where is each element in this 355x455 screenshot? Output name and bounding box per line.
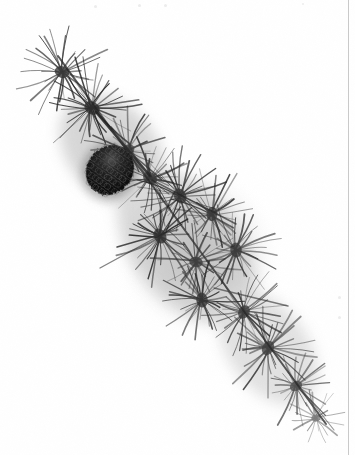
film-grain-overlay	[0, 0, 355, 455]
scan-speck-5	[338, 296, 341, 299]
scan-speck-4	[302, 3, 304, 5]
scan-speck-3	[164, 4, 167, 7]
larch-branch-photograph: Larch branch with cone Black and white p…	[0, 0, 355, 455]
scan-speck-6	[338, 316, 341, 319]
scan-speck-2	[138, 4, 141, 7]
image-canvas: Larch branch with cone Black and white p…	[0, 0, 355, 455]
page-edge-line	[348, 0, 349, 455]
scan-speck-1	[94, 5, 97, 8]
